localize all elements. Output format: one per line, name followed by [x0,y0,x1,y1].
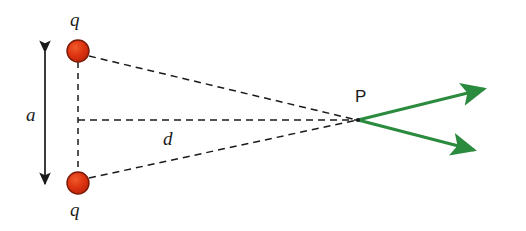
charge-bottom [67,172,89,194]
charge-top [67,40,89,62]
ray-bottom-charge-to-p [89,120,357,178]
ray-top-charge-to-p [89,56,357,120]
field-arrow-upper [358,89,484,120]
field-arrow-lower [358,120,474,150]
diagram-canvas [0,0,526,231]
charge-top-label: q [70,10,80,29]
distance-label: d [163,129,173,148]
charge-bottom-label: q [70,200,80,219]
separation-label: a [26,105,36,124]
physics-diagram: q q a d P [0,0,526,231]
point-p-label: P [355,88,366,105]
point-p-marker [356,118,360,122]
